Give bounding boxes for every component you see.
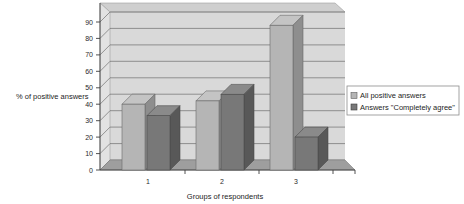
y-tick-label: 70	[85, 51, 93, 58]
chart-container: 90 80 70 60 50 40 30 20 10 0 % of positi…	[0, 0, 464, 204]
legend-swatch-dark-icon	[351, 104, 357, 110]
y-tick-label: 30	[85, 117, 93, 124]
y-tick-label: 10	[85, 150, 93, 157]
x-axis-tick-labels: 1 2 3	[146, 178, 298, 185]
y-tick-label: 40	[85, 101, 93, 108]
x-tick-marks	[185, 170, 355, 174]
bar-chart-3d: 90 80 70 60 50 40 30 20 10 0 % of positi…	[0, 0, 464, 204]
legend-item-all-positive-answers[interactable]: All positive answers	[351, 91, 426, 100]
chart-legend[interactable]: All positive answers Answers "Completely…	[347, 86, 459, 115]
y-tick-label: 50	[85, 84, 93, 91]
legend-item-label: Answers "Completely agree"	[360, 103, 455, 112]
y-tick-label: 90	[85, 19, 93, 26]
x-tick-label: 3	[294, 178, 298, 185]
legend-item-label: All positive answers	[360, 91, 426, 100]
y-tick-marks	[96, 22, 100, 170]
y-tick-label: 80	[85, 35, 93, 42]
y-tick-label: 0	[89, 167, 93, 174]
legend-swatch-light-icon	[351, 93, 357, 99]
y-axis-title: % of positive answers	[16, 92, 89, 101]
x-tick-label: 2	[220, 178, 224, 185]
x-axis-title: Groups of respondents	[187, 192, 264, 201]
bar-group-2-series-2	[221, 84, 254, 170]
y-tick-label: 20	[85, 134, 93, 141]
bar-group-1-series-2	[147, 106, 180, 170]
bar-group-3-series-2	[295, 127, 328, 170]
plot-top-face	[100, 3, 345, 12]
x-tick-label: 1	[146, 178, 150, 185]
y-tick-label: 60	[85, 68, 93, 75]
legend-item-completely-agree[interactable]: Answers "Completely agree"	[351, 103, 455, 112]
